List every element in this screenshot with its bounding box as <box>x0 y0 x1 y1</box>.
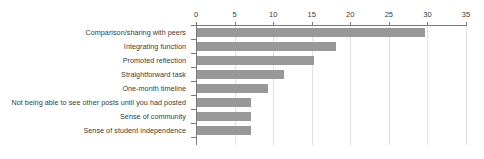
bar[interactable] <box>197 28 425 37</box>
bar-chart: Comparison/sharing with peersIntegrating… <box>0 0 484 159</box>
category-label: Not being able to see other posts until … <box>11 96 186 110</box>
x-axis-tick <box>312 22 313 26</box>
category-label: Sense of student independence <box>83 124 186 138</box>
y-axis-tick <box>191 39 196 40</box>
x-axis-line <box>196 25 467 26</box>
gridline <box>389 26 390 145</box>
y-axis-tick <box>191 81 196 82</box>
x-axis-tick-label: 0 <box>194 10 198 19</box>
bar[interactable] <box>197 70 284 79</box>
plot-area <box>196 26 466 145</box>
y-axis-tick <box>191 25 196 26</box>
x-axis-tick <box>427 22 428 26</box>
bar[interactable] <box>197 98 251 107</box>
category-label: One-month timeline <box>122 82 186 96</box>
x-axis-tick-label: 25 <box>385 10 393 19</box>
y-axis-tick <box>191 123 196 124</box>
x-axis-tick <box>196 22 197 26</box>
category-label: Sense of community <box>120 110 186 124</box>
x-axis-tick <box>350 22 351 26</box>
y-axis-tick <box>191 109 196 110</box>
bar[interactable] <box>197 112 251 121</box>
category-label: Comparison/sharing with peers <box>85 26 186 40</box>
x-axis-tick-label: 20 <box>346 10 354 19</box>
bar[interactable] <box>197 126 251 135</box>
category-label: Integrating function <box>124 40 186 54</box>
x-axis-tick <box>273 22 274 26</box>
bar[interactable] <box>197 56 314 65</box>
x-axis-tick <box>466 22 467 26</box>
y-axis-tick <box>191 95 196 96</box>
gridline <box>427 26 428 145</box>
x-axis-tick-label: 30 <box>423 10 431 19</box>
category-label: Promoted reflection <box>123 54 186 68</box>
x-axis-tick <box>235 22 236 26</box>
category-label: Straightforward task <box>121 68 186 82</box>
x-axis-tick-label: 35 <box>462 10 470 19</box>
y-axis-line <box>196 25 197 145</box>
bar[interactable] <box>197 42 336 51</box>
y-axis-tick <box>191 67 196 68</box>
x-axis-tick-label: 15 <box>308 10 316 19</box>
x-axis-tick-label: 10 <box>269 10 277 19</box>
x-axis-tick-label: 5 <box>232 10 236 19</box>
category-axis-labels: Comparison/sharing with peersIntegrating… <box>0 26 190 146</box>
x-axis-tick <box>389 22 390 26</box>
y-axis-tick <box>191 53 196 54</box>
y-axis-tick <box>191 137 196 138</box>
gridline <box>466 26 467 145</box>
bar[interactable] <box>197 84 268 93</box>
gridline <box>350 26 351 145</box>
